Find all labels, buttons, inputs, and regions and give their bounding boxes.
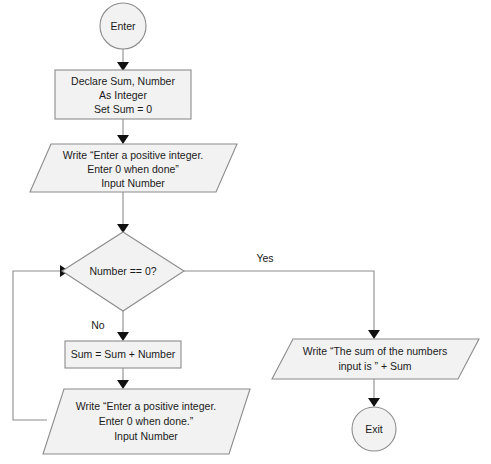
flowchart-svg: Enter Declare Sum, Number As Integer Set…: [0, 0, 491, 464]
node-end-terminator[interactable]: Exit: [352, 407, 396, 451]
first-input-line3: Input Number: [101, 177, 165, 189]
connector-yes-branch: [184, 271, 374, 332]
arrowhead-to-exit: [368, 398, 380, 407]
node-output[interactable]: Write “The sum of the numbers input is ”…: [272, 339, 479, 379]
edge-label-no: No: [91, 319, 105, 331]
node-first-input[interactable]: Write “Enter a positive integer. Enter 0…: [30, 144, 237, 192]
node-loop-input[interactable]: Write “Enter a positive integer. Enter 0…: [43, 389, 250, 454]
loop-input-line2: Enter 0 when done.”: [99, 415, 194, 427]
arrowhead-to-output: [368, 330, 380, 339]
arrowhead-to-accumulate: [117, 332, 129, 341]
output-line2: input is ” + Sum: [338, 360, 411, 372]
start-terminator-label: Enter: [110, 20, 136, 32]
flowchart-canvas: Enter Declare Sum, Number As Integer Set…: [0, 0, 491, 464]
output-line1: Write “The sum of the numbers: [303, 345, 448, 357]
edge-label-yes: Yes: [256, 252, 273, 264]
declare-process-line3: Set Sum = 0: [94, 103, 152, 115]
connector-feedback-loop: [13, 271, 68, 420]
loop-input-line3: Input Number: [114, 430, 178, 442]
loop-input-line1: Write “Enter a positive integer.: [76, 400, 216, 412]
arrowhead-to-loop-input: [117, 380, 129, 389]
arrowhead-to-first-input: [117, 135, 129, 144]
node-start-terminator[interactable]: Enter: [100, 3, 146, 49]
first-input-line2: Enter 0 when done”: [87, 163, 179, 175]
declare-process-line2: As Integer: [99, 89, 147, 101]
declare-process-line1: Declare Sum, Number: [71, 75, 175, 87]
end-terminator-label: Exit: [365, 423, 383, 435]
decision-label: Number == 0?: [89, 265, 156, 277]
accumulate-process-label: Sum = Sum + Number: [71, 348, 176, 360]
node-accumulate-process[interactable]: Sum = Sum + Number: [65, 341, 181, 368]
node-declare-process[interactable]: Declare Sum, Number As Integer Set Sum =…: [55, 70, 191, 119]
node-decision[interactable]: Number == 0?: [62, 232, 184, 311]
first-input-line1: Write “Enter a positive integer.: [63, 149, 203, 161]
